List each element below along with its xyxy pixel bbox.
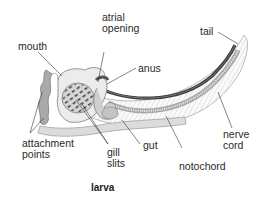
label-nerve-cord-line2: cord [223, 140, 243, 151]
label-mouth: mouth [18, 41, 47, 52]
label-gut: gut [143, 140, 158, 151]
label-attachment-points-line2: points [22, 149, 50, 160]
label-gill-slits-line2: slits [107, 158, 125, 169]
label-anus: anus [138, 63, 161, 74]
label-atrial-opening-line2: opening [102, 23, 139, 34]
label-notochord: notochord [179, 161, 226, 172]
diagram-caption: larva [91, 182, 114, 193]
label-tail: tail [200, 26, 213, 37]
